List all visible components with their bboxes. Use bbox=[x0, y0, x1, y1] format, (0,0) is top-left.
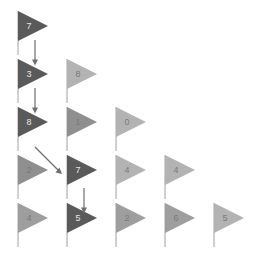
flag-grid-canvas: 738810274445265 bbox=[0, 0, 263, 268]
flag-marker[interactable]: 4 bbox=[161, 154, 207, 200]
flag-marker[interactable]: 1 bbox=[63, 106, 109, 152]
flag-shape bbox=[210, 202, 256, 248]
arrow-glyph bbox=[79, 188, 89, 214]
flag-shape bbox=[161, 154, 207, 200]
flag-shape bbox=[112, 154, 158, 200]
flag-marker[interactable]: 2 bbox=[112, 202, 158, 248]
flow-arrow-down-right bbox=[34, 146, 64, 176]
flag-banner bbox=[165, 155, 195, 185]
flag-banner bbox=[18, 203, 48, 233]
flag-banner bbox=[67, 107, 97, 137]
flag-banner bbox=[214, 203, 244, 233]
flow-arrow-down bbox=[79, 188, 89, 214]
flag-banner bbox=[67, 155, 97, 185]
flag-marker[interactable]: 0 bbox=[112, 106, 158, 152]
flag-banner bbox=[116, 107, 146, 137]
flag-shape bbox=[63, 106, 109, 152]
flag-marker[interactable]: 5 bbox=[210, 202, 256, 248]
flag-banner bbox=[18, 11, 48, 41]
arrow-glyph bbox=[30, 88, 40, 114]
flag-marker[interactable]: 8 bbox=[63, 58, 109, 104]
arrow-glyph bbox=[30, 40, 40, 66]
flag-banner bbox=[67, 59, 97, 89]
flag-marker[interactable]: 4 bbox=[14, 202, 60, 248]
flag-shape bbox=[112, 106, 158, 152]
flag-banner bbox=[116, 155, 146, 185]
flag-shape bbox=[63, 58, 109, 104]
flag-marker[interactable]: 6 bbox=[161, 202, 207, 248]
flag-marker[interactable]: 4 bbox=[112, 154, 158, 200]
flag-shape bbox=[161, 202, 207, 248]
flag-banner bbox=[165, 203, 195, 233]
flag-banner bbox=[116, 203, 146, 233]
arrow-glyph bbox=[34, 146, 64, 176]
flag-shape bbox=[14, 202, 60, 248]
flag-shape bbox=[112, 202, 158, 248]
flow-arrow-down bbox=[30, 88, 40, 114]
flow-arrow-down bbox=[30, 40, 40, 66]
